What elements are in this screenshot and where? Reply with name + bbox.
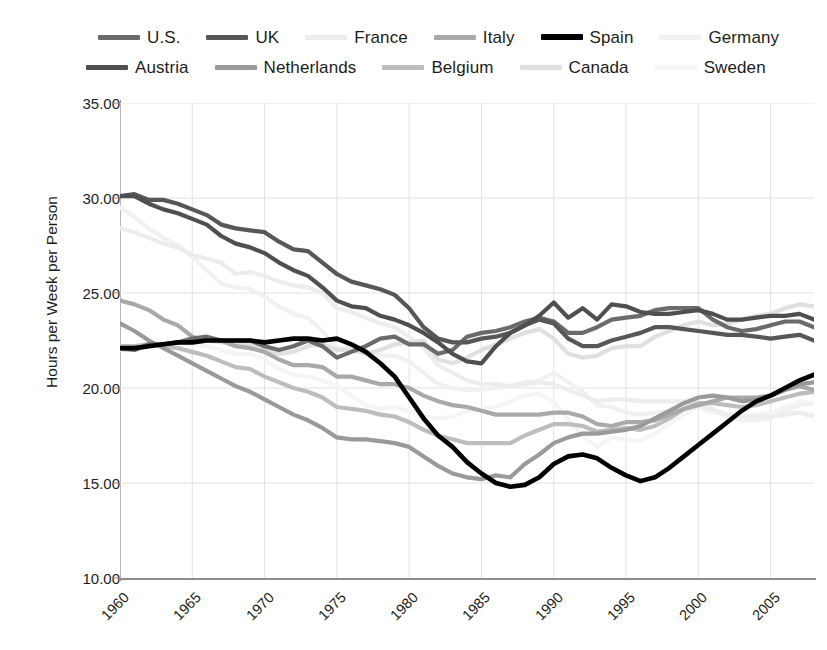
legend-swatch-us <box>98 35 140 40</box>
legend-item-uk[interactable]: UK <box>206 29 279 46</box>
legend-label-germany: Germany <box>708 29 779 46</box>
legend-swatch-sweden <box>655 65 697 70</box>
legend-item-us[interactable]: U.S. <box>98 29 180 46</box>
x-tick-label: 1970 <box>243 589 277 623</box>
legend-label-sweden: Sweden <box>704 59 766 76</box>
y-tick-label: 30.00 <box>50 190 120 207</box>
legend-label-france: France <box>354 29 408 46</box>
y-axis-ticks: 10.0015.0020.0025.0030.0035.00 <box>38 95 120 585</box>
legend-row-2: Austria Netherlands Belgium Canada Swede… <box>78 52 818 82</box>
legend-row-1: U.S. UK France Italy Spain Germany <box>78 22 818 52</box>
legend-label-us: U.S. <box>147 29 180 46</box>
legend-swatch-austria <box>86 65 128 70</box>
chart-figure: U.S. UK France Italy Spain Germany <box>0 0 827 650</box>
y-tick-label: 15.00 <box>50 475 120 492</box>
x-tick-label: 1960 <box>98 589 132 623</box>
y-tick-label: 35.00 <box>50 95 120 112</box>
legend-item-netherlands[interactable]: Netherlands <box>215 59 357 76</box>
legend-label-canada: Canada <box>569 59 629 76</box>
y-tick-label: 10.00 <box>50 570 120 587</box>
legend-label-austria: Austria <box>135 59 189 76</box>
legend-item-canada[interactable]: Canada <box>520 59 629 76</box>
legend-swatch-spain <box>541 34 583 40</box>
legend-item-italy[interactable]: Italy <box>434 29 515 46</box>
x-tick-label: 1985 <box>459 589 493 623</box>
plot-area <box>120 103 814 578</box>
line-chart-svg <box>120 103 814 578</box>
legend-item-austria[interactable]: Austria <box>86 59 189 76</box>
y-tick-label: 20.00 <box>50 380 120 397</box>
chart-legend: U.S. UK France Italy Spain Germany <box>78 22 818 82</box>
legend-swatch-netherlands <box>215 65 257 70</box>
x-tick-label: 2005 <box>749 589 783 623</box>
legend-swatch-canada <box>520 65 562 70</box>
legend-label-belgium: Belgium <box>431 59 493 76</box>
x-tick-label: 2000 <box>676 589 710 623</box>
legend-item-spain[interactable]: Spain <box>541 29 634 46</box>
x-tick-label: 1990 <box>532 589 566 623</box>
y-tick-label: 25.00 <box>50 285 120 302</box>
legend-swatch-uk <box>206 35 248 40</box>
legend-swatch-belgium <box>382 65 424 70</box>
x-tick-label: 1975 <box>315 589 349 623</box>
legend-item-belgium[interactable]: Belgium <box>382 59 493 76</box>
legend-label-spain: Spain <box>590 29 634 46</box>
legend-item-sweden[interactable]: Sweden <box>655 59 766 76</box>
legend-label-italy: Italy <box>483 29 515 46</box>
x-tick-label: 1965 <box>170 589 204 623</box>
legend-swatch-germany <box>659 35 701 40</box>
legend-label-netherlands: Netherlands <box>264 59 357 76</box>
legend-item-germany[interactable]: Germany <box>659 29 779 46</box>
legend-item-france[interactable]: France <box>305 29 408 46</box>
x-tick-label: 1995 <box>604 589 638 623</box>
x-axis-line <box>119 578 816 580</box>
legend-swatch-italy <box>434 35 476 40</box>
legend-swatch-france <box>305 35 347 40</box>
x-tick-label: 1980 <box>387 589 421 623</box>
legend-label-uk: UK <box>255 29 279 46</box>
